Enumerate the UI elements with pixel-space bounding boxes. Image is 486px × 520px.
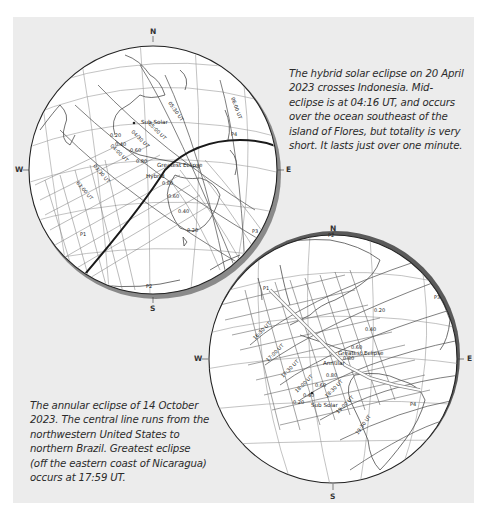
svg-text:0.40: 0.40 [115,141,126,147]
svg-text:0.20: 0.20 [187,227,198,233]
p4-label: P4 [231,131,237,137]
greatest-eclipse-label: Greatest Eclipse [157,162,203,169]
south-label: S [330,492,335,501]
svg-text:0.80: 0.80 [326,372,337,378]
north-label: N [330,224,336,233]
svg-text:0.20: 0.20 [293,399,304,405]
svg-text:0.40: 0.40 [303,392,314,398]
east-label: E [286,165,291,174]
svg-text:0.80: 0.80 [343,355,354,361]
svg-text:0.40: 0.40 [178,208,189,214]
north-label: N [150,27,156,36]
p4-label: P4 [410,401,416,407]
p1-label: P1 [80,231,86,237]
hybrid-eclipse-caption: The hybrid solar eclipse on 20 April 202… [289,67,467,153]
svg-text:0.80: 0.80 [162,180,173,186]
p2-label: P2 [146,283,152,289]
sub-solar-label: Sub Solar [311,402,338,408]
south-label: S [150,304,155,313]
svg-text:0.20: 0.20 [374,307,385,313]
hybrid-label: Hybrid [146,173,165,180]
west-label: W [194,354,203,363]
east-label: E [467,354,472,363]
svg-text:0.60: 0.60 [315,382,326,388]
p1-label: P1 [263,285,269,291]
west-label: W [15,165,24,174]
svg-text:0.20: 0.20 [110,132,121,138]
svg-text:0.80: 0.80 [136,158,147,164]
p3-label: P3 [434,294,440,300]
svg-text:0.60: 0.60 [351,344,362,350]
p3-label: P3 [252,228,258,234]
svg-text:0.60: 0.60 [130,147,141,153]
annular-eclipse-caption: The annular eclipse of 14 October 2023. … [30,399,210,485]
svg-text:0.60: 0.60 [168,193,179,199]
svg-text:0.40: 0.40 [365,326,376,332]
